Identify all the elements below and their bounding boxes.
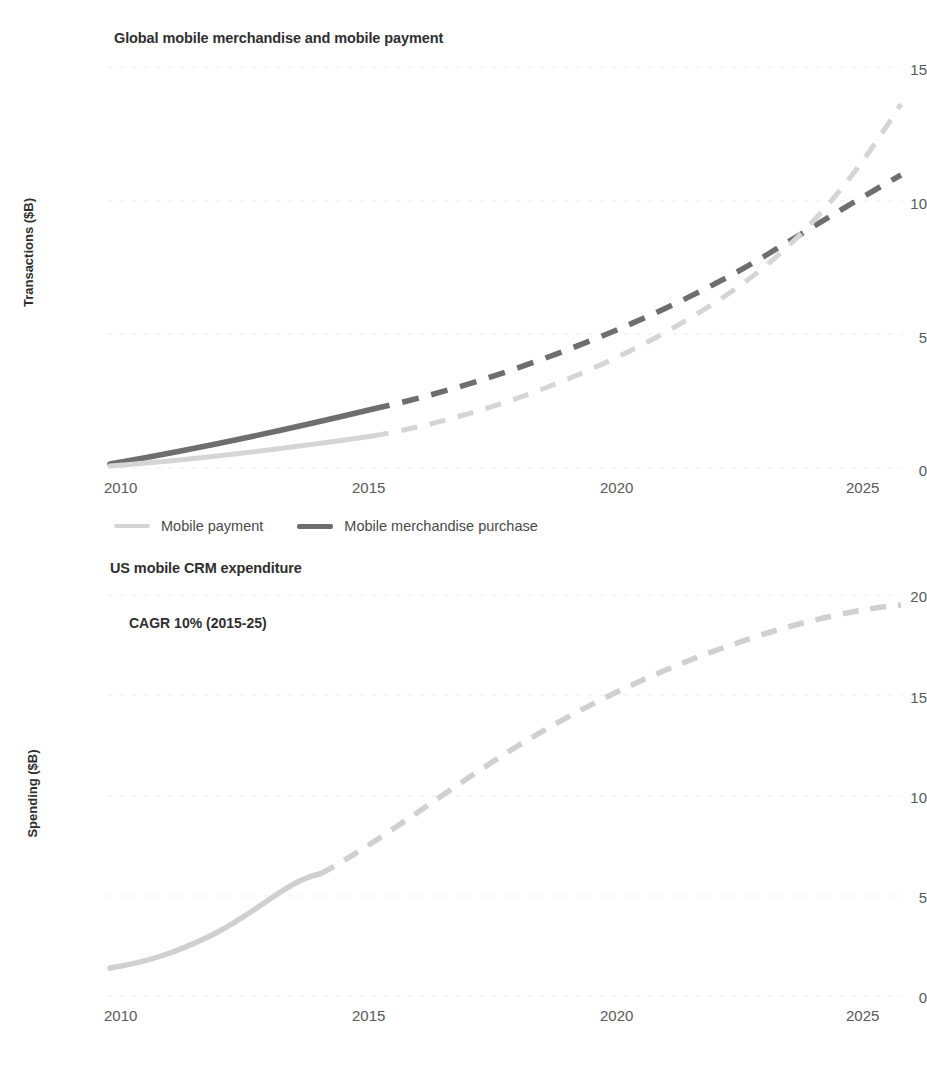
series-line-mobile-merchandise-forecast bbox=[373, 175, 901, 409]
series-line-mobile-merchandise-historical bbox=[110, 409, 373, 464]
series-line-mobile-payment-forecast bbox=[373, 104, 901, 436]
chart-page: Global mobile merchandise and mobile pay… bbox=[0, 0, 927, 1065]
plot-area-top bbox=[108, 62, 903, 472]
legend-swatch-mobile-payment bbox=[114, 524, 150, 528]
legend-label-mobile-merchandise: Mobile merchandise purchase bbox=[344, 518, 537, 534]
chart-panel-top: Global mobile merchandise and mobile pay… bbox=[0, 0, 927, 552]
legend-item-mobile-payment[interactable]: Mobile payment bbox=[114, 518, 263, 534]
x-tick-top-2025: 2025 bbox=[846, 480, 879, 495]
x-tick-top-2015: 2015 bbox=[352, 480, 385, 495]
x-tick-bottom-2010: 2010 bbox=[104, 1008, 137, 1023]
x-tick-top-2010: 2010 bbox=[104, 480, 137, 495]
gridlines-top bbox=[108, 67, 903, 468]
x-tick-bottom-2015: 2015 bbox=[352, 1008, 385, 1023]
gridlines-bottom bbox=[108, 595, 903, 996]
series-line-crm-forecast bbox=[320, 605, 901, 874]
y-axis-title-bottom: Spending ($B) bbox=[25, 714, 40, 874]
x-tick-bottom-2020: 2020 bbox=[600, 1008, 633, 1023]
chart-title-bottom: US mobile CRM expenditure bbox=[110, 560, 302, 576]
plot-area-bottom bbox=[108, 590, 903, 1000]
legend-item-mobile-merchandise[interactable]: Mobile merchandise purchase bbox=[297, 518, 537, 534]
legend-swatch-mobile-merchandise bbox=[297, 524, 333, 529]
x-tick-top-2020: 2020 bbox=[600, 480, 633, 495]
legend-label-mobile-payment: Mobile payment bbox=[161, 518, 263, 534]
series-line-crm-historical bbox=[110, 874, 320, 968]
y-axis-title-top: Transactions ($B) bbox=[21, 173, 36, 333]
chart-panel-bottom: US mobile CRM expenditure CAGR 10% (2015… bbox=[0, 552, 927, 1065]
chart-title-top: Global mobile merchandise and mobile pay… bbox=[114, 30, 443, 46]
chart-legend-top: Mobile payment Mobile merchandise purcha… bbox=[114, 518, 538, 534]
x-tick-bottom-2025: 2025 bbox=[846, 1008, 879, 1023]
